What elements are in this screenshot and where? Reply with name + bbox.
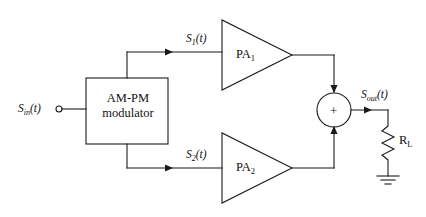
input-terminal-dot	[56, 106, 62, 112]
modulator-label-line2: modulator	[87, 107, 169, 120]
modulator-label-line1: AM-PM	[87, 92, 169, 105]
modulator-block-label: AM-PM modulator	[87, 92, 169, 119]
branch-bottom-signal-label: S2(t)	[186, 149, 207, 161]
arrow-top-branch	[165, 48, 173, 55]
load-resistor-subscript: L	[407, 139, 412, 149]
amplifier-bottom-base: PA	[236, 160, 251, 174]
arrow-summer-output	[364, 106, 372, 113]
diagram-graphics	[0, 0, 426, 217]
input-signal-label: Sin(t)	[18, 103, 41, 115]
output-signal-base: S	[361, 88, 367, 100]
input-signal-subscript: in	[24, 108, 30, 117]
load-resistor-label: RL	[399, 134, 413, 147]
branch-top-signal-label: S1(t)	[186, 33, 207, 45]
input-signal-base: S	[18, 102, 24, 114]
branch-top-signal-arg: (t)	[196, 32, 207, 44]
amplifier-top-subscript: 1	[251, 53, 255, 63]
amplifier-top-triangle	[222, 20, 292, 90]
output-signal-subscript: out	[367, 94, 377, 103]
branch-top-signal-subscript: 1	[192, 38, 196, 47]
arrow-into-summer-top	[330, 85, 337, 93]
summer-plus-label: +	[330, 104, 337, 117]
arrow-bottom-branch	[165, 164, 173, 171]
amplifier-bottom-triangle	[222, 133, 292, 203]
input-signal-arg: (t)	[30, 102, 41, 114]
amplifier-bottom-subscript: 2	[251, 166, 255, 176]
branch-bottom-signal-base: S	[186, 148, 192, 160]
load-resistor-zigzag	[382, 126, 394, 160]
amplifier-top-base: PA	[236, 47, 251, 61]
amplifier-top-label: PA1	[236, 48, 255, 61]
amplifier-bottom-label: PA2	[236, 161, 255, 174]
output-signal-arg: (t)	[377, 88, 388, 100]
output-signal-label: Sout(t)	[361, 89, 388, 101]
branch-top-signal-base: S	[186, 32, 192, 44]
diagram-canvas: Sin(t) AM-PM modulator S1(t) S2(t) PA1 P…	[0, 0, 426, 217]
branch-bottom-signal-subscript: 2	[192, 154, 196, 163]
branch-bottom-signal-arg: (t)	[196, 148, 207, 160]
